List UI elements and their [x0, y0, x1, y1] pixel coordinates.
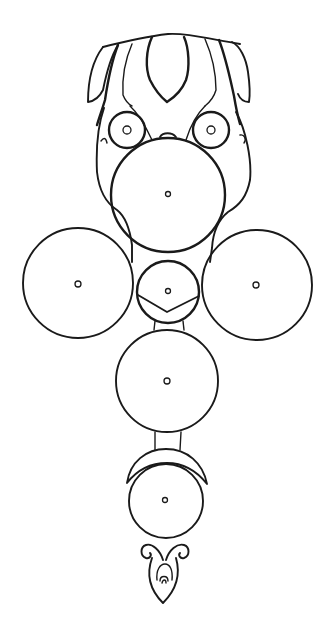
drop-inner-curl — [160, 577, 168, 584]
neck-upper-left — [154, 321, 155, 330]
brow-arch-left — [130, 106, 152, 140]
ear-nub-right — [240, 135, 245, 143]
disc-bottom — [129, 464, 203, 538]
disc-left-center — [75, 281, 81, 287]
disc-center-small-center — [166, 289, 171, 294]
brow-crest — [160, 133, 176, 137]
crown-petal-center — [147, 37, 189, 102]
disc-upper-center — [166, 192, 171, 197]
disc-center-small — [137, 261, 199, 323]
chevron — [138, 295, 199, 312]
disc-right-center — [253, 282, 259, 288]
scroll-right — [166, 545, 189, 560]
drop-finial — [142, 545, 189, 603]
head-contour-right — [210, 112, 250, 262]
disc-upper — [111, 138, 225, 252]
neck-lower-right — [180, 432, 181, 450]
crown-strand-left — [97, 45, 118, 125]
crown-lobe-right — [232, 42, 250, 102]
eye-pupil-left — [123, 126, 131, 134]
neck-upper-right — [183, 321, 184, 330]
eye-ring-right — [193, 112, 229, 148]
disc-left — [23, 228, 133, 338]
eye-pupil-right — [207, 126, 215, 134]
drop-inner-arch — [157, 564, 172, 580]
crown-strand-right-inner — [205, 39, 216, 106]
drawing-canvas — [0, 0, 331, 632]
disc-lower-center — [164, 378, 170, 384]
eye-ring-left — [109, 112, 145, 148]
pendant-sketch — [0, 0, 331, 632]
disc-lower — [116, 330, 218, 432]
ear-nub-left — [101, 139, 107, 143]
disc-right — [202, 230, 312, 340]
crown-strand-left-inner — [123, 44, 132, 106]
crown-strand-right — [219, 40, 240, 124]
head-contour-left — [97, 108, 132, 262]
crown-lobe-left — [88, 45, 118, 102]
disc-bottom-center — [163, 498, 168, 503]
